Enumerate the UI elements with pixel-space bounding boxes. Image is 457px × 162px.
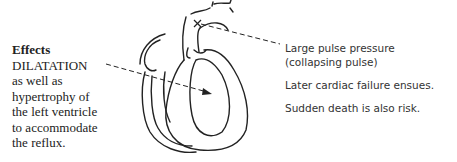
annotation-line: Later cardiac failure ensues. [285,78,434,92]
annotations-block: Large pulse pressure (collapsing pulse) … [285,41,434,124]
annotation-line: Large pulse pressure [285,41,434,55]
effects-line: the left ventricle [12,104,98,120]
heart-diagram: Effects DILATATION as well as hypertroph… [0,0,457,162]
annotation-sudden-death: Sudden death is also risk. [285,101,434,115]
effects-title: Effects [12,42,98,58]
annotation-pulse-pressure: Large pulse pressure (collapsing pulse) [285,41,434,69]
arrowhead-icon [202,88,212,95]
annotation-line: Sudden death is also risk. [285,101,434,115]
effects-line: DILATATION [12,58,98,74]
effects-line: to accommodate [12,120,98,136]
effects-text-block: Effects DILATATION as well as hypertroph… [12,42,98,151]
effects-line: hypertrophy of [12,89,98,105]
effects-line: as well as [12,73,98,89]
annotation-cardiac-failure: Later cardiac failure ensues. [285,78,434,92]
effects-line: the reflux. [12,135,98,151]
annotation-line: (collapsing pulse) [285,55,434,69]
